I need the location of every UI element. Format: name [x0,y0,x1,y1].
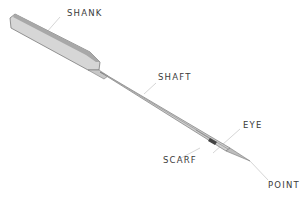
point-leader-line [250,161,268,180]
label-shaft: SHAFT [158,73,192,82]
needle-illustration [0,0,306,198]
label-point: POINT [268,181,300,190]
needle-diagram: SHANK SHAFT EYE SCARF POINT [0,0,306,198]
needle-shaft-highlight [104,74,228,149]
needle-point [226,148,250,161]
shaft-leader-line [144,83,156,94]
label-scarf: SCARF [163,156,197,165]
needle-scarf-groove [196,130,212,140]
label-eye: EYE [243,121,263,130]
label-shank: SHANK [67,9,103,18]
